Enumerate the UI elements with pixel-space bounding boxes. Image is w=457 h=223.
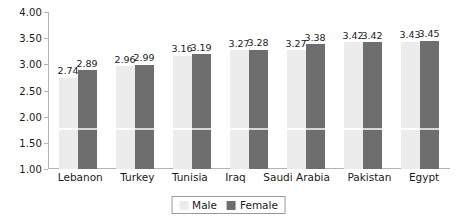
bar-male[interactable]: 3.27	[230, 50, 249, 169]
bar-inner-gridline	[135, 128, 154, 130]
bar-male[interactable]: 3.42	[344, 42, 363, 169]
bar-male[interactable]: 3.27	[287, 50, 306, 169]
bar-value-label: 2.74	[57, 66, 78, 76]
bar-group: 3.433.45	[401, 12, 439, 169]
bar-value-label: 3.42	[342, 31, 363, 41]
y-tick-label: 2.00	[19, 111, 42, 122]
bar-value-label: 3.19	[190, 43, 211, 53]
bar-male[interactable]: 3.43	[401, 42, 420, 169]
y-tick-label: 1.50	[19, 137, 42, 148]
bar-inner-gridline	[306, 128, 325, 130]
x-axis-label: Iraq	[225, 171, 246, 183]
bar-inner-gridline	[116, 128, 135, 130]
x-axis-label: Tunisia	[172, 171, 208, 183]
bar-female[interactable]: 2.89	[78, 70, 97, 169]
x-axis-label: Turkey	[120, 171, 154, 183]
bar-value-label: 2.96	[114, 55, 135, 65]
bar-inner-gridline	[344, 128, 363, 130]
legend-label: Male	[192, 199, 217, 211]
bar-groups: 2.742.892.962.993.163.193.273.283.273.38…	[49, 12, 448, 169]
chart-legend: MaleFemale	[171, 196, 286, 214]
bar-group: 2.742.89	[59, 12, 97, 169]
bar-female[interactable]: 3.19	[192, 54, 211, 169]
bar-inner-gridline	[59, 128, 78, 130]
legend-item-female[interactable]: Female	[227, 199, 278, 211]
bar-female[interactable]: 3.42	[363, 42, 382, 169]
x-axis-label: Pakistan	[347, 171, 391, 183]
bar-value-label: 3.45	[418, 29, 439, 39]
legend-swatch-icon	[227, 201, 236, 210]
bar-female[interactable]: 3.28	[249, 50, 268, 169]
bar-inner-gridline	[401, 128, 420, 130]
bar-inner-gridline	[192, 128, 211, 130]
y-tick-label: 1.00	[19, 164, 42, 175]
bar-value-label: 2.89	[76, 59, 97, 69]
x-axis-category-labels: LebanonTurkeyTunisiaIraqSaudi ArabiaPaki…	[49, 171, 448, 183]
legend-label: Female	[240, 199, 278, 211]
plot-area: 4.003.503.002.502.001.501.00 2.742.892.9…	[48, 12, 448, 169]
bar-group: 3.423.42	[344, 12, 382, 169]
bar-inner-gridline	[249, 128, 268, 130]
bar-group: 2.962.99	[116, 12, 154, 169]
bar-chart: 4.003.503.002.502.001.501.00 2.742.892.9…	[0, 0, 457, 223]
bar-male[interactable]: 2.74	[59, 78, 78, 169]
bar-value-label: 3.43	[399, 30, 420, 40]
bar-female[interactable]: 3.45	[420, 41, 439, 169]
x-axis-label: Lebanon	[58, 171, 103, 183]
y-tick-label: 2.50	[19, 85, 42, 96]
bar-inner-gridline	[287, 128, 306, 130]
y-tick-mark	[44, 169, 48, 170]
y-tick-mark	[44, 12, 48, 13]
bar-value-label: 3.38	[304, 33, 325, 43]
bar-inner-gridline	[420, 128, 439, 130]
bar-value-label: 3.28	[247, 38, 268, 48]
bar-male[interactable]: 2.96	[116, 66, 135, 169]
bar-value-label: 3.16	[171, 44, 192, 54]
y-tick-mark	[44, 64, 48, 65]
bar-inner-gridline	[230, 128, 249, 130]
bar-inner-gridline	[173, 128, 192, 130]
bar-value-label: 3.27	[285, 39, 306, 49]
bar-group: 3.273.38	[287, 12, 325, 169]
y-tick-mark	[44, 91, 48, 92]
y-tick-mark	[44, 117, 48, 118]
y-tick-label: 3.00	[19, 59, 42, 70]
legend-swatch-icon	[179, 201, 188, 210]
bar-female[interactable]: 2.99	[135, 65, 154, 169]
bar-inner-gridline	[363, 128, 382, 130]
y-tick-label: 4.00	[19, 7, 42, 18]
bar-group: 3.163.19	[173, 12, 211, 169]
bar-female[interactable]: 3.38	[306, 44, 325, 169]
bar-group: 3.273.28	[230, 12, 268, 169]
bar-value-label: 3.27	[228, 39, 249, 49]
y-tick-mark	[44, 38, 48, 39]
y-tick-mark	[44, 143, 48, 144]
bar-inner-gridline	[78, 128, 97, 130]
legend-item-male[interactable]: Male	[179, 199, 217, 211]
bar-value-label: 3.42	[361, 31, 382, 41]
bar-male[interactable]: 3.16	[173, 56, 192, 169]
x-axis-label: Saudi Arabia	[263, 171, 330, 183]
y-tick-label: 3.50	[19, 33, 42, 44]
x-axis-label: Egypt	[409, 171, 439, 183]
bar-value-label: 2.99	[133, 53, 154, 63]
